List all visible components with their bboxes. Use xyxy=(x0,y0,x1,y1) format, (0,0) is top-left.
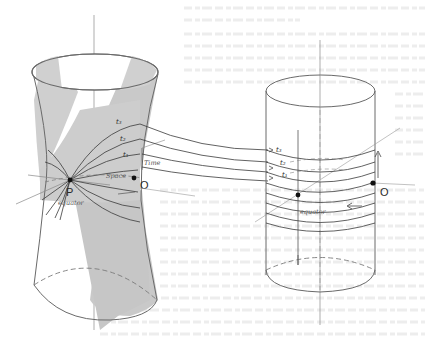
hyperboloid: P O t₃ t₂ t₁ Time Space equator xyxy=(16,15,165,330)
point-P-label: P xyxy=(66,186,73,198)
point-P-marker xyxy=(68,178,73,183)
point-O-marker-cylinder xyxy=(370,180,375,185)
t2-label-hyperboloid: t₂ xyxy=(120,135,126,143)
cylinder-O-line xyxy=(372,183,415,185)
point-O-marker-hyperboloid xyxy=(132,176,137,181)
point-equator-marker xyxy=(296,193,301,198)
mapping-lines xyxy=(140,124,268,181)
cylinder-bottom-back xyxy=(266,258,375,271)
equator-label-cylinder: equator xyxy=(300,208,327,216)
space-label: Space xyxy=(106,172,126,180)
t1-label-hyperboloid: t₁ xyxy=(123,151,129,159)
t2-label-cylinder: t₂ xyxy=(280,159,286,167)
t3-label-hyperboloid: t₃ xyxy=(116,118,122,126)
time-label: Time xyxy=(144,159,161,167)
diagram-canvas: P O t₃ t₂ t₁ Time Space equator xyxy=(0,0,434,338)
equator-label-hyperboloid: equator xyxy=(58,199,85,207)
cylinder-top-rim xyxy=(266,75,375,107)
point-O-label-cylinder: O xyxy=(380,186,389,198)
t3-label-cylinder: t₃ xyxy=(276,146,282,154)
t1-label-cylinder: t₁ xyxy=(282,171,288,179)
